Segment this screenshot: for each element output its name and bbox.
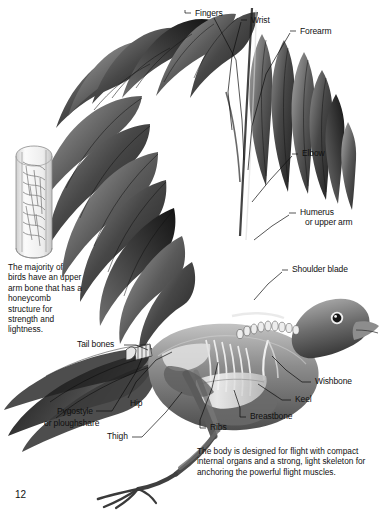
label-humerus: Humerus — [300, 207, 334, 217]
label-keel: Keel — [295, 394, 312, 404]
bird-skeleton-illustration — [0, 0, 381, 511]
label-fingers: Fingers — [195, 8, 223, 18]
label-shoulder-blade: Shoulder blade — [292, 264, 348, 274]
wing-primaries — [56, 12, 258, 128]
wing-secondaries — [250, 34, 357, 210]
label-ribs: Ribs — [210, 422, 227, 432]
bone-cross-section-figure — [16, 146, 52, 258]
label-forearm: Forearm — [300, 26, 331, 36]
label-wishbone: Wishbone — [315, 376, 352, 386]
label-breastbone: Breastbone — [250, 411, 292, 421]
caption-bone-structure: The majority of birds have an upper arm … — [8, 262, 82, 335]
label-wrist: Wrist — [251, 15, 270, 25]
label-thigh: Thigh — [107, 431, 128, 441]
page-root: Fingers Wrist Forearm Elbow Humerus or u… — [0, 0, 381, 511]
label-tail-bones: Tail bones — [77, 339, 114, 349]
label-ploughshare: or ploughshare — [44, 418, 99, 428]
caption-body-design: The body is designed for flight with com… — [197, 446, 369, 477]
label-hip: Hip — [130, 398, 142, 408]
label-humerus-alt: or upper arm — [305, 217, 352, 227]
label-elbow: Elbow — [302, 148, 325, 158]
page-number: 12 — [15, 489, 26, 500]
label-pygostyle: Pygostyle — [57, 406, 93, 416]
